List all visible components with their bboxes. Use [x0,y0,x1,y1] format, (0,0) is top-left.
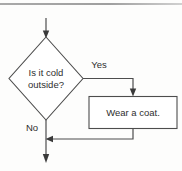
yes-arrowhead [130,89,136,97]
no-connector [43,120,49,163]
flowchart-svg: Is it cold outside? Yes Wear a coat. No [0,0,182,171]
edge-label-yes: Yes [91,59,107,70]
yes-connector [83,79,136,97]
return-connector [46,129,134,143]
flowchart-canvas: Is it cold outside? Yes Wear a coat. No [0,0,182,171]
action-label: Wear a coat. [106,107,160,118]
no-arrowhead [43,154,49,163]
decision-label-line1: Is it cold [29,67,64,78]
entry-connector [43,18,49,39]
edge-label-no: No [26,122,38,133]
decision-label-line2: outside? [28,79,64,90]
return-arrowhead [46,136,54,142]
